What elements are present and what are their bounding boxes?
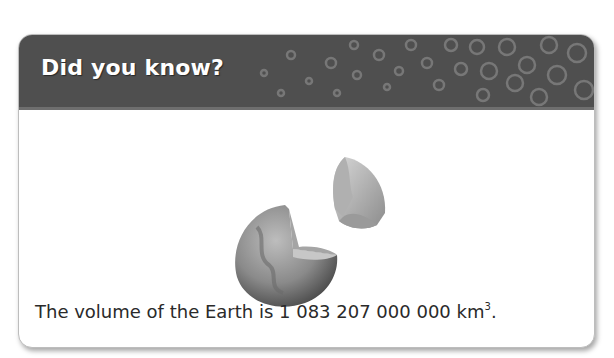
fact-suffix: . — [491, 301, 497, 322]
fact-value: 1 083 207 000 000 — [279, 301, 451, 322]
card-header: Did you know? — [19, 35, 594, 110]
earth-cutaway-icon — [227, 157, 397, 307]
fact-prefix: The volume of the Earth is — [35, 301, 279, 322]
card-title: Did you know? — [41, 55, 224, 80]
did-you-know-card: Did you know? — [18, 34, 595, 348]
fact-unit: km — [457, 301, 485, 322]
fact-text: The volume of the Earth is 1 083 207 000… — [35, 301, 497, 322]
